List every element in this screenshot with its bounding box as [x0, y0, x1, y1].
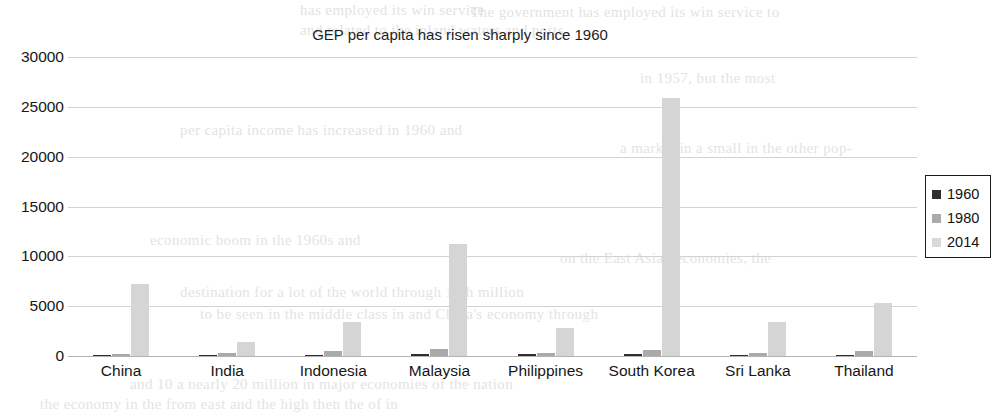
- y-tick-label: 25000: [2, 98, 64, 116]
- y-tick-label: 0: [2, 347, 64, 365]
- x-axis: ChinaIndiaIndonesiaMalaysiaPhilippinesSo…: [68, 362, 917, 390]
- bar-china-2014[interactable]: [131, 284, 149, 356]
- bar-group: [836, 57, 892, 356]
- bar-group: [93, 57, 149, 356]
- bar-group: [411, 57, 467, 356]
- bar-india-2014[interactable]: [237, 342, 255, 356]
- x-tick-label: Sri Lanka: [725, 362, 790, 380]
- legend-label: 2014: [947, 235, 979, 250]
- legend-swatch-icon: [932, 238, 941, 247]
- gridline: [68, 207, 917, 208]
- x-tick-label: South Korea: [609, 362, 695, 380]
- legend-item-1980[interactable]: 1980: [932, 206, 990, 230]
- chart-legend: 196019802014: [925, 175, 991, 258]
- bar-malaysia-1980[interactable]: [430, 349, 448, 356]
- bar-group: [730, 57, 786, 356]
- y-tick-label: 30000: [2, 48, 64, 66]
- bar-indonesia-2014[interactable]: [343, 322, 361, 356]
- y-tick-label: 5000: [2, 297, 64, 315]
- x-tick-label: China: [101, 362, 142, 380]
- x-tick-label: Malaysia: [409, 362, 470, 380]
- plot-area: [68, 57, 917, 356]
- bar-group: [624, 57, 680, 356]
- x-tick-label: India: [210, 362, 244, 380]
- legend-item-2014[interactable]: 2014: [932, 230, 990, 254]
- y-axis: 050001000015000200002500030000: [0, 0, 64, 411]
- x-tick-label: Philippines: [508, 362, 583, 380]
- gridline: [68, 306, 917, 307]
- x-axis-baseline: [68, 356, 917, 357]
- gridline: [68, 57, 917, 58]
- bar-philippines-2014[interactable]: [556, 328, 574, 356]
- legend-swatch-icon: [932, 214, 941, 223]
- y-tick-label: 20000: [2, 148, 64, 166]
- bar-malaysia-2014[interactable]: [449, 244, 467, 356]
- legend-swatch-icon: [932, 190, 941, 199]
- gridline: [68, 256, 917, 257]
- bar-group: [518, 57, 574, 356]
- bar-thailand-2014[interactable]: [874, 303, 892, 356]
- bar-sri-lanka-2014[interactable]: [768, 322, 786, 356]
- legend-label: 1960: [947, 187, 979, 202]
- y-tick-label: 15000: [2, 198, 64, 216]
- gridline: [68, 157, 917, 158]
- bar-south-korea-2014[interactable]: [662, 98, 680, 356]
- y-tick-label: 10000: [2, 247, 64, 265]
- gridline: [68, 107, 917, 108]
- bar-group: [305, 57, 361, 356]
- chart-title: GEP per capita has risen sharply since 1…: [0, 26, 920, 43]
- legend-label: 1980: [947, 211, 979, 226]
- x-tick-label: Indonesia: [300, 362, 367, 380]
- bar-group: [199, 57, 255, 356]
- legend-item-1960[interactable]: 1960: [932, 182, 990, 206]
- x-tick-label: Thailand: [834, 362, 893, 380]
